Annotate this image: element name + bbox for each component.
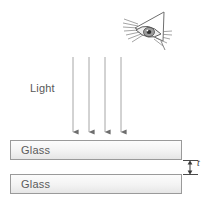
glass-plate-bottom: Glass [10, 174, 182, 194]
optics-diagram: Light Glass Glass t [0, 0, 214, 198]
gap-thickness-label: t [197, 157, 200, 168]
glass-plate-bottom-label: Glass [21, 178, 50, 190]
glass-plate-top-label: Glass [21, 144, 50, 156]
glass-plate-top: Glass [10, 140, 182, 160]
